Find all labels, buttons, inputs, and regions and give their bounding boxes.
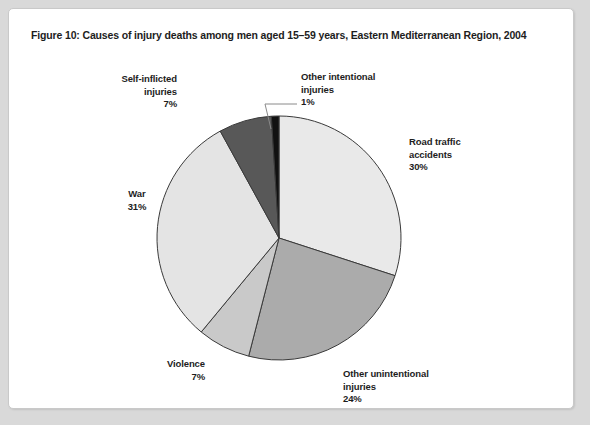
label-other-intentional-injuries-line1: Other intentional xyxy=(301,71,441,84)
label-self-inflicted-injuries-line2: injuries xyxy=(47,86,177,99)
label-road-traffic-accidents-pct: 30% xyxy=(409,161,539,174)
label-other-intentional-injuries: Other intentional injuries 1% xyxy=(301,71,441,109)
label-other-unintentional-injuries: Other unintentional injuries 24% xyxy=(343,368,493,406)
label-other-intentional-injuries-pct: 1% xyxy=(301,96,441,109)
figure-card: Figure 10: Causes of injury deaths among… xyxy=(8,8,574,409)
label-road-traffic-accidents-line1: Road traffic xyxy=(409,136,539,149)
pie-slice-group xyxy=(157,116,401,360)
label-war-pct: 31% xyxy=(95,201,179,214)
label-self-inflicted-injuries-line1: Self-inflicted xyxy=(47,73,177,86)
label-road-traffic-accidents: Road traffic accidents 30% xyxy=(409,136,539,174)
label-violence-pct: 7% xyxy=(85,371,205,384)
label-self-inflicted-injuries: Self-inflicted injuries 7% xyxy=(47,73,177,111)
label-war: War 31% xyxy=(95,188,179,213)
label-self-inflicted-injuries-pct: 7% xyxy=(47,98,177,111)
label-other-unintentional-injuries-line1: Other unintentional xyxy=(343,368,493,381)
label-violence: Violence 7% xyxy=(85,358,205,383)
pie-chart xyxy=(9,9,574,409)
label-war-line1: War xyxy=(95,188,179,201)
label-road-traffic-accidents-line2: accidents xyxy=(409,149,539,162)
pie-chart-svg xyxy=(9,9,574,409)
label-other-intentional-injuries-line2: injuries xyxy=(301,84,441,97)
label-violence-line1: Violence xyxy=(85,358,205,371)
label-other-unintentional-injuries-pct: 24% xyxy=(343,393,493,406)
label-other-unintentional-injuries-line2: injuries xyxy=(343,381,493,394)
